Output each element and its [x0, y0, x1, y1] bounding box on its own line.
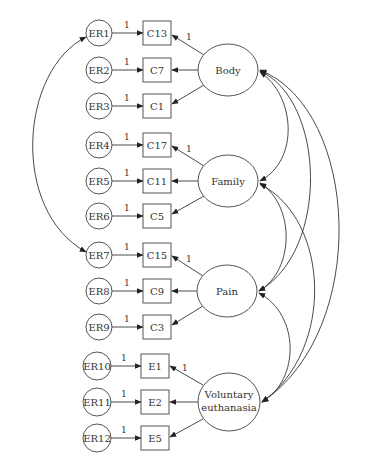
error-weight: 1 [124, 57, 130, 67]
loading-weight: 1 [186, 32, 192, 42]
error-label-er8: ER8 [88, 286, 109, 297]
error-label-er7: ER7 [88, 250, 109, 261]
covariance-body-ve [260, 70, 339, 402]
factor-label-family: Family [211, 176, 245, 187]
factor-label-voluntary: Voluntary [204, 389, 254, 400]
error-weight: 1 [124, 168, 130, 178]
error-weight: 1 [124, 278, 130, 288]
loading-path-c3 [172, 306, 203, 325]
indicator-label-c17: C17 [147, 140, 167, 151]
indicator-label-c3: C3 [150, 322, 164, 333]
error-weight: 1 [124, 20, 130, 30]
indicator-label-c11: C11 [147, 176, 167, 187]
error-label-er12: ER12 [83, 433, 111, 444]
loading-weight: 1 [186, 144, 192, 154]
indicator-label-c7: C7 [150, 65, 164, 76]
error-label-er2: ER2 [88, 65, 109, 76]
error-weight: 1 [124, 242, 130, 252]
error-label-er6: ER6 [88, 211, 109, 222]
factor-label-pain: Pain [216, 286, 238, 297]
covariance-family-pain [259, 183, 286, 291]
error-weight: 1 [124, 314, 130, 324]
sem-diagram: ER1 ER2 ER3 1 1 1 C13 C7 C1 1 Body ER4 E… [0, 0, 378, 463]
error-label-er10: ER10 [83, 361, 111, 372]
error-label-er4: ER4 [88, 140, 109, 151]
indicator-label-c15: C15 [147, 250, 167, 261]
covariance-body-family [260, 72, 288, 181]
indicator-label-e2: E2 [148, 397, 162, 408]
error-weight: 1 [124, 132, 130, 142]
covariance-er1-er7 [33, 37, 86, 252]
indicator-label-c9: C9 [150, 286, 164, 297]
indicator-label-c5: C5 [150, 211, 164, 222]
factor-group-pain: ER7 ER8 ER9 1 1 1 C15 C9 C3 1 Pain [86, 242, 257, 340]
error-weight: 1 [121, 353, 127, 363]
loading-path-c1 [172, 85, 204, 104]
error-label-er11: ER11 [83, 397, 111, 408]
loading-path-e5 [170, 419, 203, 437]
loading-path-c5 [172, 196, 204, 214]
error-weight: 1 [121, 389, 127, 399]
error-label-er9: ER9 [88, 322, 109, 333]
factor-group-voluntary-euthanasia: ER10 ER11 ER12 1 1 1 E1 E2 E5 1 Voluntar… [83, 352, 260, 452]
indicator-label-e5: E5 [148, 433, 162, 444]
loading-weight: 1 [186, 254, 192, 264]
error-weight: 1 [121, 425, 127, 435]
loading-weight: 1 [182, 363, 188, 373]
error-weight: 1 [124, 203, 130, 213]
error-weight: 1 [124, 93, 130, 103]
covariance-pain-ve [259, 293, 290, 402]
error-label-er3: ER3 [88, 101, 109, 112]
factor-label-body: Body [215, 65, 241, 76]
indicator-label-e1: E1 [148, 361, 162, 372]
indicator-label-c13: C13 [147, 28, 167, 39]
factor-group-body: ER1 ER2 ER3 1 1 1 C13 C7 C1 1 Body [86, 20, 258, 119]
factor-group-family: ER4 ER5 ER6 1 1 1 C17 C11 C5 1 Family [86, 132, 258, 229]
factor-label-euthanasia: euthanasia [201, 402, 257, 413]
error-label-er5: ER5 [88, 176, 109, 187]
indicator-label-c1: C1 [150, 101, 164, 112]
error-label-er1: ER1 [88, 28, 109, 39]
